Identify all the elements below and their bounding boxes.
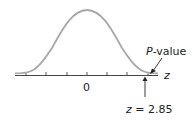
test-statistic-label: z = 2.85 <box>126 104 172 115</box>
axis-variable-label: z <box>164 70 170 81</box>
pvalue-pointer-line <box>153 58 162 71</box>
center-tick-label: 0 <box>83 82 90 93</box>
normal-curve <box>15 10 158 73</box>
pvalue-label: P-value <box>146 46 186 57</box>
test-stat-arrowhead-icon <box>143 77 148 82</box>
